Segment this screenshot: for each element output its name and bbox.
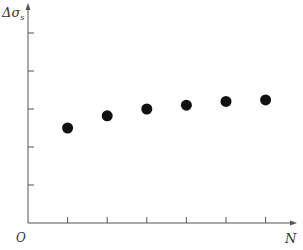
x-axis-label: N: [284, 231, 297, 246]
data-point: [102, 110, 113, 121]
scatter-chart: Δσs N O: [0, 0, 303, 250]
data-point: [141, 104, 152, 115]
y-axis-label: Δσs: [1, 5, 24, 22]
data-points: [62, 94, 271, 133]
axes: [26, 3, 298, 226]
data-point: [181, 100, 192, 111]
y-axis-arrow-icon: [26, 3, 31, 10]
data-point: [221, 96, 232, 107]
origin-label: O: [16, 231, 26, 245]
data-point: [62, 123, 73, 134]
data-point: [260, 94, 271, 105]
x-axis-arrow-icon: [290, 221, 297, 226]
